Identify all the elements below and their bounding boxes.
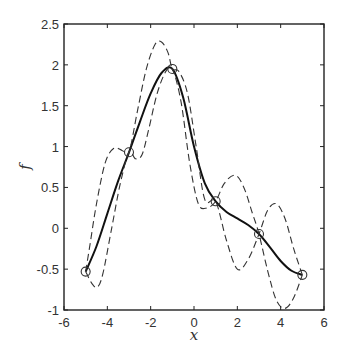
y-tick-label: 2	[52, 58, 59, 73]
axes: -6-4-20246-1-0.500.511.522.5	[37, 17, 328, 330]
mean-curve	[86, 67, 303, 275]
x-tick-label: -4	[102, 315, 114, 330]
series-layer	[81, 41, 307, 308]
x-tick-label: -2	[145, 315, 157, 330]
gaussian-process-plot: -6-4-20246-1-0.500.511.522.5 x f	[0, 0, 344, 359]
x-tick-label: -6	[58, 315, 70, 330]
y-tick-label: 0	[52, 221, 59, 236]
x-tick-label: 6	[320, 315, 327, 330]
y-tick-label: 1	[52, 140, 59, 155]
y-tick-label: -1	[47, 303, 59, 318]
y-tick-label: -0.5	[37, 262, 59, 277]
y-tick-label: 0.5	[41, 180, 59, 195]
y-tick-label: 1.5	[41, 99, 59, 114]
x-tick-label: 4	[277, 315, 284, 330]
x-axis-label: x	[190, 326, 199, 344]
y-tick-label: 2.5	[41, 17, 59, 32]
x-tick-label: 2	[234, 315, 241, 330]
sample-curve-1	[86, 66, 303, 308]
plot-frame	[64, 24, 324, 310]
y-axis-label: f	[16, 162, 34, 171]
sample-curve-2	[86, 41, 303, 275]
